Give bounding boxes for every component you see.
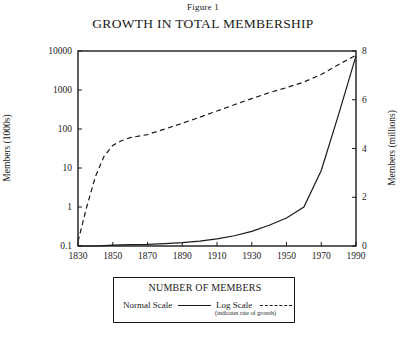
axis-ticks bbox=[78, 51, 356, 246]
right-tick-label: 2 bbox=[362, 192, 367, 202]
x-tick-label: 1990 bbox=[347, 251, 366, 261]
x-tick-label: 1890 bbox=[173, 251, 192, 261]
legend-sublabel: (indicates rate of growth) bbox=[198, 310, 293, 316]
legend-title: NUMBER OF MEMBERS bbox=[114, 282, 296, 293]
x-tick-label: 1850 bbox=[103, 251, 122, 261]
right-tick-label: 4 bbox=[362, 144, 367, 154]
series-normal-scale-line bbox=[78, 56, 356, 246]
legend-swatch-dashed-line bbox=[260, 305, 292, 306]
legend-swatch-solid-line bbox=[178, 305, 211, 306]
x-tick-label: 1930 bbox=[242, 251, 261, 261]
chart-canvas bbox=[0, 0, 406, 275]
x-tick-label: 1830 bbox=[69, 251, 88, 261]
legend: NUMBER OF MEMBERS Normal Scale Log Scale… bbox=[113, 277, 295, 323]
x-tick-label: 1970 bbox=[312, 251, 331, 261]
right-tick-label: 0 bbox=[362, 241, 367, 251]
right-axis-title: Members (millions) bbox=[387, 110, 397, 186]
left-tick-label: 0.1 bbox=[20, 241, 72, 251]
series-log-scale-line bbox=[78, 55, 356, 241]
legend-item-normal-scale: Normal Scale bbox=[123, 300, 172, 310]
right-tick-label: 6 bbox=[362, 95, 367, 105]
x-tick-label: 1910 bbox=[208, 251, 227, 261]
x-tick-label: 1870 bbox=[138, 251, 157, 261]
right-tick-label: 8 bbox=[362, 46, 367, 56]
left-tick-label: 100 bbox=[20, 124, 72, 134]
left-tick-label: 10000 bbox=[20, 46, 72, 56]
left-tick-label: 1 bbox=[20, 202, 72, 212]
legend-item-log-scale: Log Scale bbox=[216, 300, 252, 310]
left-axis-title: Members (1000s) bbox=[2, 114, 12, 181]
plot-area: 0.1110100100010000 02468 183018501870189… bbox=[0, 0, 406, 275]
plot-frame bbox=[78, 51, 356, 246]
x-tick-label: 1950 bbox=[277, 251, 296, 261]
left-tick-label: 10 bbox=[20, 163, 72, 173]
left-tick-label: 1000 bbox=[20, 85, 72, 95]
